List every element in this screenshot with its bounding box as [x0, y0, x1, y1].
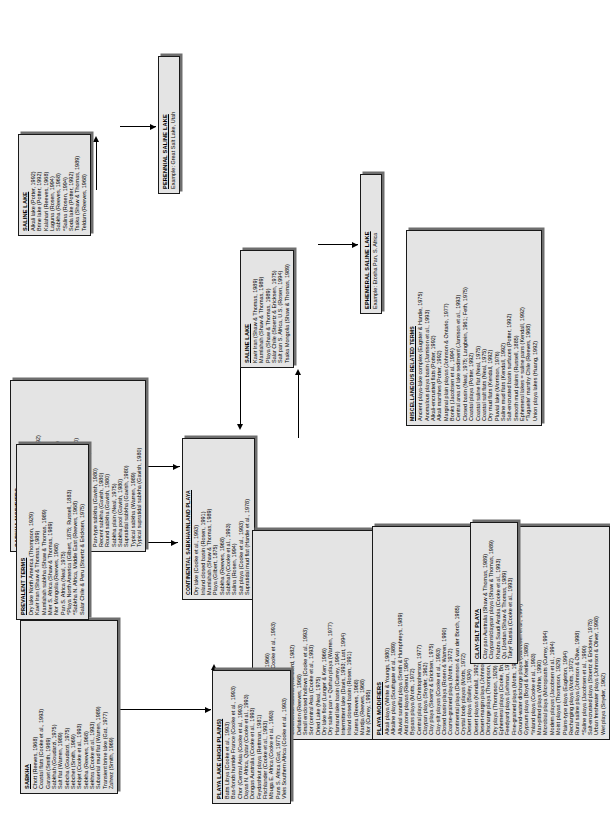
connector-saline-lake2-in: [96, 140, 97, 190]
box-sabkha: SABKHA Chott (Reeves, 1968) Coastal flat…: [20, 620, 118, 794]
ephemeral-saline-lake-example: Example: Etosha Pan, S. Africa: [372, 179, 379, 309]
perennial-saline-lake-example: Example: Great Salt Lake, Utah: [170, 61, 177, 189]
box-perennial-saline-lake: PERENNIAL SALINE LAKE Example: Great Sal…: [158, 56, 180, 194]
list-item: Claypans/claypan playa (Shaw & Thomas, 1…: [488, 527, 494, 659]
list-item: Tsaka Mongolia (Shaw & Thomas, 1989): [284, 255, 290, 363]
box-miscellaneous-related-terms: MISCELLANEOUS RELATED TERMS Ancient play…: [406, 230, 542, 426]
box-title-continental-sabkha: CONTINENTAL SABKHA/INLAND PLAYA: [186, 443, 192, 595]
list-item: Takyr Russia (Cooke et al., 1993): [507, 527, 513, 659]
list-item: Typical supratidal sabkha (Gavish, 1980): [136, 385, 142, 547]
box-title-saline-lake: SALINE LAKE: [244, 255, 250, 363]
box-title-saline-lake-2: SALINE LAKE: [22, 139, 28, 231]
list-prevalent-terms: Dry lake North America (Thompson, 1929) …: [28, 449, 85, 615]
box-prevalent-terms-box: PREVALENT TERMS Dry lake North America (…: [16, 444, 89, 620]
arrowhead-down-1: [205, 708, 211, 714]
arrowhead-down-4: [352, 243, 358, 249]
box-playa-lake: PLAYA LAKE (HIGH PLAINS) Batts Libya (Co…: [212, 670, 291, 804]
box-title-clay-silt-playa: CLAY-SILT PLAYA: [474, 527, 480, 659]
box-title-perennial-saline-lake: PERENNIAL SALINE LAKE: [162, 61, 168, 189]
list-clay-silt-playa: Clay pan Australia (Shaw & Thomas, 1989)…: [482, 527, 514, 659]
box-title-miscellaneous: MISCELLANEOUS RELATED TERMS: [410, 235, 416, 421]
list-item: Wet playa (Snyder, 1962): [600, 531, 606, 735]
list-playa-lake: Batts Libya (Cooke et al., 1993) Bas-fon…: [224, 675, 287, 799]
arrowhead-right-2: [295, 369, 301, 375]
arrowhead-down-5: [150, 125, 156, 131]
box-saline-lake-2: SALINE LAKE Alkali lake (Potter, 1992) B…: [18, 134, 91, 236]
box-title-playa-modifiers: PLAYA MODIFIERS: [376, 531, 382, 735]
list-saline-lake-2: Alkali lake (Potter, 1992) Brine lake (P…: [30, 139, 87, 231]
list-item: Vleis Southern Africa (Cooke et al., 199…: [281, 675, 287, 799]
list-item: Salt pan S. Africa, U.S. (Rosen, 1994): [277, 255, 283, 363]
list-item: Supratidal mud flat (Hardie et al., 1978…: [244, 443, 250, 595]
arrowhead-down-3: [171, 541, 177, 547]
list-item: Bas-fonds humide France (Cooke et al., 1…: [230, 675, 236, 799]
box-ephemeral-saline-lake: EPHEMERAL SALINE LAKE Example: Etosha Pa…: [360, 174, 382, 314]
box-saline-lake: SALINE LAKE Kavir Iran (Shaw & Thomas, 1…: [240, 250, 294, 368]
list-item: Union playa lakes (Huang, 1992): [532, 235, 538, 421]
list-item: Teldam (Reeves, 1968): [81, 139, 87, 231]
connector-sabkha-to-playa-lake: [118, 709, 211, 710]
list-saline-lake: Kavir Iran (Shaw & Thomas, 1989) Mamlaha…: [252, 255, 290, 363]
list-sabkha: Chott (Reeves, 1968) Coastal flats (Cook…: [32, 625, 114, 789]
list-continental-sabkha: Dry lake (Cooke et al., 1993) Inland clo…: [193, 443, 250, 595]
box-continental-sabkha: CONTINENTAL SABKHA/INLAND PLAYA Dry lake…: [182, 438, 255, 600]
box-clay-silt-playa: CLAY-SILT PLAYA Clay pan Australia (Shaw…: [470, 522, 518, 664]
arrowhead-left-1: [237, 424, 243, 430]
list-item: Zahrez (Smith, 1969): [108, 625, 114, 789]
list-item: Salar Chile & Peru (Stoertz & Ericksen, …: [79, 449, 85, 615]
box-title-playa-lake: PLAYA LAKE (HIGH PLAINS): [216, 675, 222, 799]
connector-continental-to-saline: [298, 372, 299, 438]
list-miscellaneous: Ancient playa-lake complex (Eugster & Ha…: [417, 235, 538, 421]
box-title-prevalent-terms: PREVALENT TERMS: [20, 449, 26, 615]
arrowhead-down-2: [173, 465, 179, 471]
box-title-sabkha: SABKHA: [24, 625, 30, 789]
arrowhead-right-3: [93, 136, 99, 142]
box-title-ephemeral-saline-lake: EPHEMERAL SALINE LAKE: [364, 179, 370, 309]
